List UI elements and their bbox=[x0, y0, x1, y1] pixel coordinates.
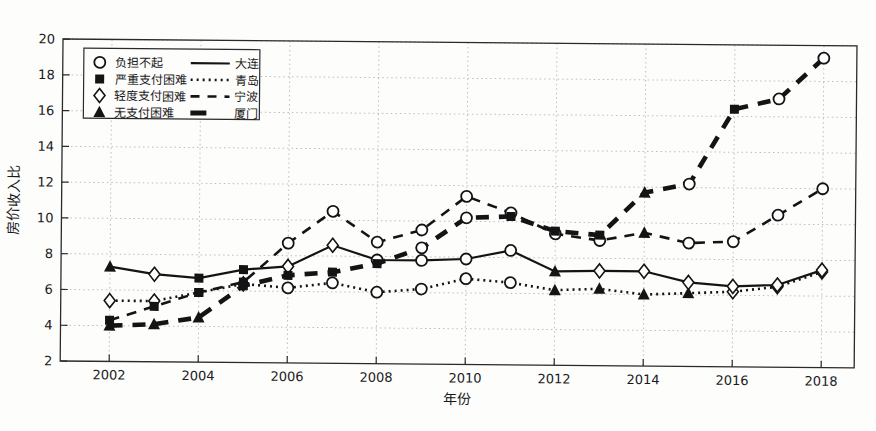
circle-marker bbox=[817, 183, 828, 194]
legend-label-qingdao: 青岛 bbox=[235, 73, 259, 88]
line-chart: 2468101214161820200220042006200820102012… bbox=[0, 0, 876, 431]
x-tick-label: 2014 bbox=[626, 372, 659, 387]
legend-label-dalian: 大连 bbox=[235, 56, 259, 71]
circle-marker bbox=[282, 282, 293, 293]
square-marker bbox=[373, 259, 382, 268]
square-marker bbox=[239, 265, 248, 274]
circle-marker bbox=[728, 236, 739, 247]
legend: 负担不起大连严重支付困难青岛轻度支付困难宁波无支付困难厦门 bbox=[83, 48, 260, 121]
square-marker bbox=[730, 105, 739, 114]
y-tick-label: 12 bbox=[37, 174, 54, 189]
circle-legend-icon bbox=[94, 57, 105, 68]
legend-row-severe: 严重支付困难青岛 bbox=[95, 71, 259, 87]
circle-marker bbox=[461, 212, 472, 223]
legend-label-unaffordable: 负担不起 bbox=[115, 56, 163, 70]
legend-label-none: 无支付困难 bbox=[114, 106, 174, 121]
square-marker bbox=[551, 227, 560, 236]
legend-label-severe: 严重支付困难 bbox=[115, 73, 187, 88]
circle-marker bbox=[416, 224, 427, 235]
circle-marker bbox=[772, 210, 783, 221]
x-tick-label: 2012 bbox=[537, 371, 570, 386]
circle-marker bbox=[818, 53, 829, 64]
y-axis-label: 房价收入比 bbox=[5, 165, 22, 235]
x-tick-label: 2002 bbox=[92, 367, 125, 382]
square-legend-icon bbox=[95, 74, 104, 83]
x-tick-label: 2010 bbox=[448, 370, 481, 385]
y-tick-label: 16 bbox=[38, 103, 55, 118]
x-tick-label: 2004 bbox=[181, 368, 214, 383]
x-tick-label: 2006 bbox=[270, 369, 303, 384]
y-tick-label: 8 bbox=[45, 246, 53, 261]
y-tick-label: 14 bbox=[37, 139, 54, 154]
circle-marker bbox=[327, 206, 338, 217]
legend-label-ningbo: 宁波 bbox=[234, 89, 258, 104]
circle-marker bbox=[460, 273, 471, 284]
circle-marker bbox=[461, 191, 472, 202]
x-tick-label: 2016 bbox=[715, 373, 748, 388]
square-marker bbox=[150, 302, 159, 311]
square-marker bbox=[595, 231, 604, 240]
y-tick-label: 4 bbox=[44, 318, 52, 333]
y-tick-label: 6 bbox=[44, 282, 52, 297]
circle-marker bbox=[683, 238, 694, 249]
circle-marker bbox=[371, 287, 382, 298]
circle-marker bbox=[372, 237, 383, 248]
circle-marker bbox=[416, 255, 427, 266]
y-tick-label: 18 bbox=[38, 67, 55, 82]
legend-label-mild: 轻度支付困难 bbox=[114, 88, 186, 104]
circle-marker bbox=[327, 277, 338, 288]
square-marker bbox=[283, 271, 292, 280]
y-tick-label: 10 bbox=[37, 210, 54, 225]
square-marker bbox=[194, 288, 203, 297]
circle-marker bbox=[283, 238, 294, 249]
legend-row-mild: 轻度支付困难宁波 bbox=[94, 88, 259, 104]
x-tick-label: 2018 bbox=[804, 374, 837, 389]
housing-price-income-ratio-figure: 2468101214161820200220042006200820102012… bbox=[0, 0, 876, 431]
x-tick-label: 2008 bbox=[359, 370, 392, 385]
circle-marker bbox=[773, 93, 784, 104]
square-marker bbox=[328, 268, 337, 277]
circle-marker bbox=[416, 242, 427, 253]
square-marker bbox=[194, 274, 203, 283]
circle-marker bbox=[684, 178, 695, 189]
circle-marker bbox=[416, 283, 427, 294]
x-axis-label: 年份 bbox=[443, 391, 471, 407]
circle-marker bbox=[505, 245, 516, 256]
square-marker bbox=[506, 212, 515, 221]
legend-label-xiamen: 厦门 bbox=[234, 106, 258, 121]
y-tick-label: 2 bbox=[44, 353, 52, 368]
y-tick-label: 20 bbox=[38, 31, 55, 46]
circle-marker bbox=[461, 253, 472, 264]
square-marker bbox=[239, 281, 248, 290]
circle-marker bbox=[505, 277, 516, 288]
